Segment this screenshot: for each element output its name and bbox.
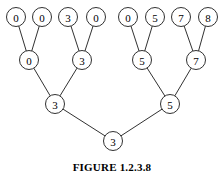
tree-node-label: 3: [79, 55, 85, 67]
tree-node-label: 0: [13, 12, 19, 24]
tournament-tree-diagram: 003005780357353: [0, 0, 224, 171]
tree-node: 3: [104, 132, 123, 151]
tree-node: 0: [119, 8, 138, 27]
figure-caption: FIGURE 1.2.3.8: [0, 161, 224, 171]
tree-edge: [85, 26, 93, 51]
tree-edge: [19, 26, 27, 51]
tree-edge: [199, 26, 206, 51]
tree-node: 0: [7, 8, 26, 27]
tree-node-label: 0: [39, 12, 45, 24]
tree-node: 5: [133, 51, 152, 70]
tree-node-label: 3: [65, 12, 71, 24]
tree-node: 5: [146, 8, 165, 27]
tree-edge: [34, 68, 50, 96]
tree-node: 5: [161, 95, 180, 114]
tree-edges-group: [19, 26, 206, 136]
tree-node-label: 0: [93, 12, 99, 24]
tree-edge: [145, 26, 153, 51]
tree-edge: [71, 26, 79, 51]
tree-node-label: 7: [178, 12, 184, 24]
tree-node: 3: [59, 8, 78, 27]
tree-node-label: 8: [205, 12, 211, 24]
tree-node-label: 3: [110, 136, 116, 148]
tree-node-label: 5: [167, 99, 173, 111]
tree-node: 0: [33, 8, 52, 27]
tree-node: 0: [20, 51, 39, 70]
tree-node: 0: [87, 8, 106, 27]
tree-node-label: 0: [26, 55, 32, 67]
tree-edge: [32, 26, 40, 51]
figure-container: 003005780357353 FIGURE 1.2.3.8: [0, 0, 224, 171]
tree-node: 8: [199, 8, 218, 27]
tree-node-label: 5: [139, 55, 145, 67]
tree-node-label: 3: [52, 99, 58, 111]
tree-edge: [131, 26, 139, 51]
tree-edge: [184, 26, 193, 51]
tree-edge: [121, 109, 162, 136]
tree-node: 7: [187, 51, 206, 70]
tree-edge: [60, 68, 77, 96]
tree-node-label: 7: [193, 55, 199, 67]
tree-node-label: 5: [152, 12, 158, 24]
tree-node: 7: [172, 8, 191, 27]
tree-edge: [147, 68, 165, 96]
tree-node-label: 0: [125, 12, 131, 24]
tree-edge: [175, 68, 191, 96]
tree-node: 3: [73, 51, 92, 70]
tree-edge: [63, 109, 105, 136]
tree-node: 3: [46, 95, 65, 114]
